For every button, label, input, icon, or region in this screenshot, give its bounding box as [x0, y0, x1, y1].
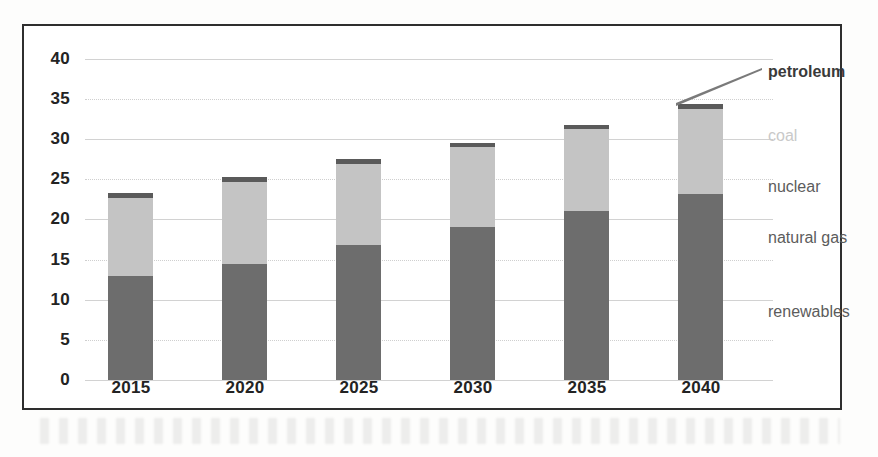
bar-segment-petroleum-2020[interactable] [222, 177, 267, 182]
bar-segment-renewables-2030[interactable] [450, 227, 495, 380]
gridline-35 [85, 99, 773, 100]
caption-smudge [40, 418, 840, 444]
bar-segment-petroleum-2015[interactable] [108, 193, 153, 198]
bar-segment-petroleum-2035[interactable] [564, 125, 609, 130]
chart-frame: 4035302520151050201520202025203020352040 [22, 24, 842, 410]
bar-segment-coal-2025[interactable] [336, 164, 381, 245]
plot-area: 4035302520151050201520202025203020352040 [24, 26, 844, 412]
bar-segment-coal-2015[interactable] [108, 198, 153, 276]
gridline-20 [85, 219, 773, 220]
y-axis-tick-40: 40 [24, 49, 70, 69]
series-label-renewables: renewables [768, 303, 850, 321]
y-axis-tick-15: 15 [24, 250, 70, 270]
series-label-petroleum: petroleum [768, 63, 845, 81]
y-axis-tick-0: 0 [24, 370, 70, 390]
bar-segment-coal-2020[interactable] [222, 182, 267, 264]
bar-segment-coal-2035[interactable] [564, 129, 609, 210]
bar-segment-petroleum-2040[interactable] [678, 104, 723, 109]
y-axis-tick-20: 20 [24, 209, 70, 229]
x-axis-tick-2025: 2025 [321, 378, 397, 398]
bar-segment-coal-2040[interactable] [678, 109, 723, 194]
bar-segment-renewables-2035[interactable] [564, 211, 609, 380]
series-label-natural-gas: natural gas [768, 229, 847, 247]
bar-segment-petroleum-2025[interactable] [336, 159, 381, 164]
bar-segment-renewables-2025[interactable] [336, 245, 381, 380]
series-label-coal: coal [768, 127, 797, 145]
series-label-nuclear: nuclear [768, 178, 820, 196]
gridline-25 [85, 179, 773, 180]
gridline-40 [85, 59, 773, 60]
gridline-10 [85, 300, 773, 301]
gridline-30 [85, 139, 773, 140]
y-axis-tick-30: 30 [24, 129, 70, 149]
bar-segment-renewables-2040[interactable] [678, 194, 723, 380]
y-axis-tick-25: 25 [24, 169, 70, 189]
figure-page: 4035302520151050201520202025203020352040… [0, 0, 878, 457]
x-axis-tick-2015: 2015 [93, 378, 169, 398]
x-axis-tick-2040: 2040 [663, 378, 739, 398]
x-axis-tick-2020: 2020 [207, 378, 283, 398]
x-axis-tick-2030: 2030 [435, 378, 511, 398]
bar-segment-coal-2030[interactable] [450, 147, 495, 226]
bar-segment-petroleum-2030[interactable] [450, 143, 495, 147]
x-axis-tick-2035: 2035 [549, 378, 625, 398]
bar-segment-renewables-2020[interactable] [222, 264, 267, 380]
y-axis-tick-35: 35 [24, 89, 70, 109]
bar-segment-renewables-2015[interactable] [108, 276, 153, 380]
y-axis-tick-5: 5 [24, 330, 70, 350]
y-axis-tick-10: 10 [24, 290, 70, 310]
gridline-5 [85, 340, 773, 341]
gridline-15 [85, 260, 773, 261]
